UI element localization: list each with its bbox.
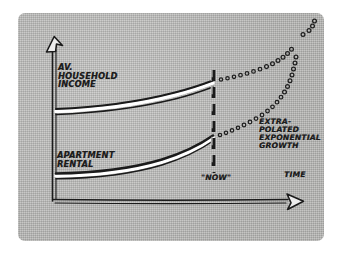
figure-screenshot: AV. HOUSEHOLD INCOME APARTMENT RENTAL EX… xyxy=(0,0,339,253)
label-now: "NOW" xyxy=(201,174,231,182)
label-extrapolated-exponential-growth: EXTRA- POLATED EXPONENTIAL GROWTH xyxy=(259,118,321,150)
label-household-income: AV. HOUSEHOLD INCOME xyxy=(58,63,118,89)
x-axis xyxy=(53,194,304,210)
label-apartment-rental: APARTMENT RENTAL xyxy=(57,151,114,168)
label-time-axis: TIME xyxy=(284,171,306,179)
income-extrapolation-dots xyxy=(219,19,316,81)
now-line xyxy=(212,70,214,173)
